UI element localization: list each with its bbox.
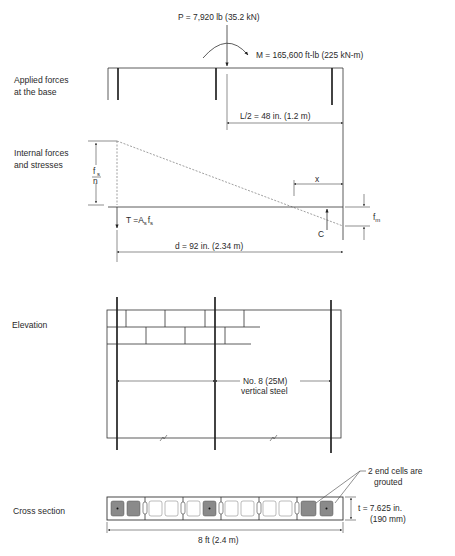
masonry-stress-label: fm [373,212,380,223]
masonry-shear-wall-diagram: Applied forces at the base P = 7,920 lb … [0,0,455,556]
length-label: 8 ft (2.4 m) [198,535,239,545]
thickness-label-2: (190 mm) [370,514,406,524]
grout-leader-2 [335,471,360,503]
moment-arrow-icon [203,43,248,58]
cross-section-label: Cross section [13,506,65,516]
depth-label: d = 92 in. (2.34 m) [175,241,243,251]
grout-note: 2 end cells are [368,466,423,476]
thickness-label: t = 7.625 in. [358,503,402,513]
steel-stress-n: n [93,176,98,186]
moment-label: M = 165,600 ft-lb (225 kN-m) [256,50,363,60]
stress-distribution-line [117,141,343,226]
elevation-section: Elevation No. 8 (25M) vertical steel [12,297,341,453]
cross-section: Cross section [13,466,423,545]
applied-forces-label: Applied forces [14,75,68,85]
internal-forces-label: Internal forces [14,148,68,158]
wall-elevation-outline [107,310,341,438]
internal-forces-label-2: and stresses [14,160,63,170]
steel-stress-f: f [93,166,96,176]
compression-label: C [318,229,324,239]
applied-forces-section: Applied forces at the base P = 7,920 lb … [14,12,363,240]
rebar-label: No. 8 (25M) [243,376,287,386]
rebar-label-2: vertical steel [241,386,288,396]
internal-forces-section: Internal forces and stresses f s n T =As… [14,141,380,262]
masonry-units [107,310,260,344]
grout-note-2: grouted [374,477,403,487]
elevation-label: Elevation [12,320,48,330]
neutral-axis-label: x [315,174,320,184]
half-length-label: L/2 = 48 in. (1.2 m) [240,111,311,121]
applied-forces-label-2: at the base [14,87,57,97]
axial-load-label: P = 7,920 lb (35.2 kN) [178,12,260,22]
tension-label: T =Asfs [126,215,153,226]
